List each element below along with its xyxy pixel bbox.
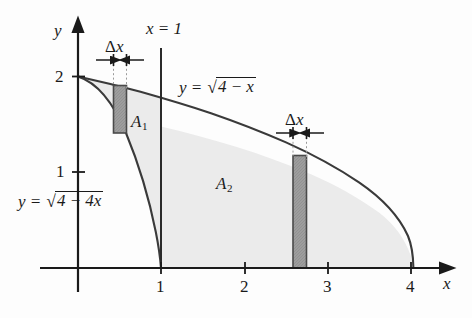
area-label-a1-subscript: 1 (142, 120, 148, 132)
y-tick-label-2: 2 (55, 68, 64, 85)
upper-curve-eq-lhs: y = (179, 78, 202, 97)
delta-symbol: Δ (285, 110, 296, 129)
region-a2-fill (161, 127, 413, 268)
lower-curve-eq-lhs: y = (18, 192, 41, 211)
x-tick-label-1: 1 (156, 278, 165, 295)
lower-curve-radical: √4 − 4x (46, 192, 104, 210)
graph-canvas (0, 0, 472, 318)
lower-curve-radicand: 4 − 4x (55, 191, 104, 209)
x-axis-label: x (443, 275, 451, 292)
delta-x-strip-1 (114, 86, 127, 134)
y-tick-label-1: 1 (56, 163, 65, 180)
delta-x-strip-2 (293, 156, 307, 269)
area-label-a2-letter: A (216, 174, 226, 193)
figure-container: y x 2 1 1 2 3 4 x = 1 y = √4 − x y = √4 … (0, 0, 472, 318)
upper-curve-equation: y = √4 − x (179, 78, 256, 96)
delta-x-label-2: Δx (285, 111, 303, 128)
delta-x-label-1: Δx (105, 38, 123, 55)
y-axis-label: y (54, 22, 62, 39)
area-label-a1-letter: A (131, 112, 141, 131)
area-label-a2-subscript: 2 (227, 182, 233, 194)
delta-symbol: Δ (105, 37, 116, 56)
lower-curve-equation: y = √4 − 4x (18, 192, 103, 210)
upper-curve-radical: √4 − x (207, 78, 256, 96)
x-tick-label-3: 3 (323, 278, 332, 295)
x-tick-label-2: 2 (240, 278, 249, 295)
delta-var: x (296, 110, 304, 129)
area-label-a2: A2 (216, 175, 232, 192)
x-tick-label-4: 4 (406, 278, 415, 295)
area-label-a1: A1 (131, 113, 147, 130)
delta-var: x (116, 37, 124, 56)
upper-curve-radicand: 4 − x (216, 77, 256, 95)
vertical-line-label: x = 1 (146, 20, 182, 37)
